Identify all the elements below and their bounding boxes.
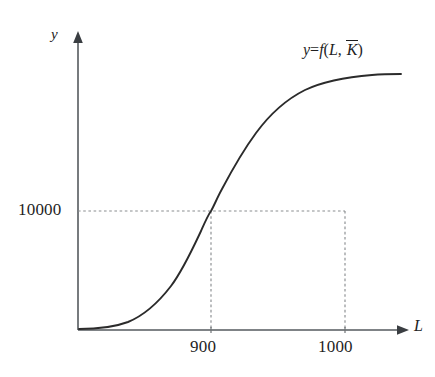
y-axis-arrow-icon bbox=[73, 31, 83, 43]
production-function-curve bbox=[79, 74, 401, 329]
equation-close-paren: ) bbox=[358, 41, 363, 58]
curve-equation-annotation: y=f(L,K) bbox=[303, 41, 363, 58]
y-axis-label: y bbox=[51, 27, 58, 42]
y-tick-label-10000: 10000 bbox=[18, 201, 62, 218]
equation-equals: = bbox=[310, 41, 319, 58]
x-axis-arrow-icon bbox=[397, 325, 409, 335]
equation-K-bar: K bbox=[347, 41, 358, 58]
x-tick-label-900: 900 bbox=[190, 338, 216, 355]
figure-container: y L 10000 900 1000 y=f(L,K) bbox=[0, 0, 435, 377]
equation-L: L bbox=[329, 41, 338, 58]
production-function-chart bbox=[0, 0, 435, 377]
equation-comma: , bbox=[338, 41, 342, 58]
x-tick-label-1000: 1000 bbox=[318, 338, 353, 355]
x-axis-label: L bbox=[414, 318, 423, 334]
